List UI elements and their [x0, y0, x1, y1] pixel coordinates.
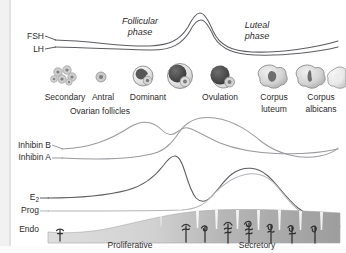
proliferative-phase-label: Proliferative: [88, 240, 172, 250]
dominant-follicle-label: Dominant: [120, 92, 176, 102]
e2-subscript: 2: [35, 196, 39, 203]
inhibin-a-label: Inhibin A: [0, 152, 51, 162]
secretory-phase-label: Secretory: [222, 240, 292, 250]
inhibin-b-label: Inhibin B: [0, 140, 51, 150]
endo-label: Endo: [0, 224, 39, 234]
luteal-phase-label: Luteal phase: [222, 20, 292, 42]
menstrual-cycle-figure: Follicular phase Luteal phase FSH LH Inh…: [0, 0, 346, 253]
corpus-albicans-label: Corpus: [298, 92, 344, 102]
corpus-luteum-label: Corpus: [252, 92, 296, 102]
lh-label: LH: [0, 44, 44, 54]
bottom-scan-band: [0, 246, 346, 253]
corpus-luteum-regressing-icon: [296, 65, 325, 88]
corpus-albicans-label-2: albicans: [296, 104, 346, 114]
antral-follicle-icon: [96, 72, 106, 82]
fsh-label: FSH: [0, 31, 44, 41]
follicular-phase-label: Follicular phase: [105, 16, 175, 38]
preovulatory-follicle-icon: [168, 64, 193, 89]
prog-label: Prog: [0, 205, 39, 215]
corpus-luteum-label-2: luteum: [252, 104, 296, 114]
dominant-follicle-icon: [133, 66, 153, 86]
corpus-luteum-icon: [258, 65, 287, 88]
ovarian-follicles-group-label: Ovarian follicles: [48, 106, 152, 116]
ovulation-label: Ovulation: [191, 92, 249, 102]
antral-follicle-label: Antral: [82, 92, 124, 102]
e2-label: E2: [0, 192, 39, 205]
